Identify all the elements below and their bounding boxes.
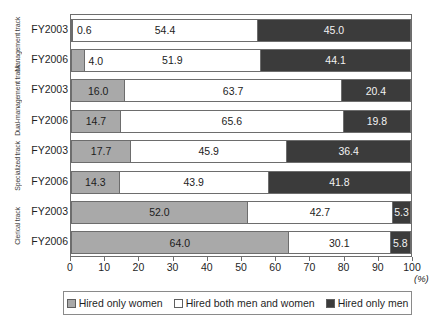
bar-value-label-outside: 4.0 — [89, 56, 104, 67]
bar-value-label: 54.4 — [155, 25, 175, 36]
bar-row: 14.343.941.8 — [71, 171, 411, 194]
category-label: FY2003 — [26, 206, 68, 217]
group-label: Specialized track — [14, 136, 26, 197]
bar-segment: 5.8 — [391, 231, 411, 254]
legend-label: Hired only women — [79, 298, 163, 309]
bar-value-label: 17.7 — [91, 146, 111, 157]
category-label: FY2006 — [26, 236, 68, 247]
category-label-column: FY2003FY2006FY2003FY2006FY2003FY2006FY20… — [26, 0, 68, 327]
bar-row: 17.745.936.4 — [71, 140, 411, 163]
legend-swatch — [67, 299, 76, 308]
bar-segment: 43.9 — [120, 171, 269, 194]
bar-segment: 4.0 — [71, 49, 85, 72]
x-axis-tick-label: 100 — [403, 262, 421, 273]
x-axis-tick-label: 10 — [98, 262, 110, 273]
bar-value-label: 51.9 — [162, 55, 182, 66]
category-label: FY2003 — [26, 84, 68, 95]
bar-row: 14.765.619.8 — [71, 110, 411, 133]
bar-value-label: 63.7 — [223, 86, 243, 97]
legend-swatch — [174, 299, 183, 308]
bar-value-label: 43.9 — [184, 177, 204, 188]
bar-segment: 45.0 — [258, 19, 411, 42]
bar-value-label: 36.4 — [338, 146, 358, 157]
bar-value-label: 30.1 — [329, 238, 349, 249]
bar-segment: 16.0 — [71, 79, 125, 102]
bar-row: 4.051.944.1 — [71, 49, 411, 72]
bar-value-label: 44.1 — [325, 55, 345, 66]
x-axis-tick-label: 70 — [304, 262, 316, 273]
bar-value-label: 20.4 — [366, 86, 386, 97]
bar-value-label: 65.6 — [222, 116, 242, 127]
legend-swatch — [326, 299, 335, 308]
x-axis-unit-label: (%) — [414, 274, 429, 284]
x-axis-tick-label: 60 — [269, 262, 281, 273]
bar-segment: 19.8 — [344, 110, 411, 133]
bar-value-label: 16.0 — [88, 86, 108, 97]
bar-segment: 44.1 — [261, 49, 411, 72]
bar-segment: 52.0 — [71, 201, 248, 224]
category-label: FY2006 — [26, 115, 68, 126]
category-label: FY2003 — [26, 145, 68, 156]
legend-label: Hired both men and women — [186, 298, 315, 309]
bar-value-label: 42.7 — [310, 207, 330, 218]
legend: Hired only womenHired both men and women… — [63, 291, 412, 315]
x-axis-tick-label: 40 — [201, 262, 213, 273]
bar-segment: 30.1 — [289, 231, 391, 254]
stacked-bar-chart: Management trackDual-management trackSpe… — [0, 0, 437, 327]
bar-segment: 64.0 — [71, 231, 289, 254]
x-axis-tick-label: 90 — [372, 262, 384, 273]
bar-segment: 54.4 — [73, 19, 258, 42]
bar-segment: 42.7 — [248, 201, 393, 224]
legend-item: Hired both men and women — [174, 298, 315, 309]
bar-row: 0.654.445.0 — [71, 19, 411, 42]
bar-value-label: 45.9 — [198, 146, 218, 157]
bar-value-label: 64.0 — [170, 238, 190, 249]
bar-segment: 17.7 — [71, 140, 131, 163]
bar-value-label: 52.0 — [149, 207, 169, 218]
bar-value-label: 14.7 — [86, 116, 106, 127]
bar-value-label: 5.8 — [393, 238, 408, 249]
legend-item: Hired only men — [326, 298, 409, 309]
bar-segment: 36.4 — [287, 140, 411, 163]
category-label: FY2003 — [26, 24, 68, 35]
category-label: FY2006 — [26, 176, 68, 187]
bar-row: 64.030.15.8 — [71, 231, 411, 254]
x-axis-tick-label: 0 — [67, 262, 73, 273]
bar-segment: 63.7 — [125, 79, 341, 102]
bar-segment: 41.8 — [269, 171, 411, 194]
bar-value-label: 19.8 — [367, 116, 387, 127]
bar-row: 16.063.720.4 — [71, 79, 411, 102]
x-axis-tick-label: 50 — [235, 262, 247, 273]
bar-segment: 65.6 — [121, 110, 344, 133]
plot-area: 0.654.445.00.64.051.944.14.016.063.720.4… — [70, 14, 412, 257]
bar-segment: 45.9 — [131, 140, 287, 163]
bar-segment: 14.3 — [71, 171, 120, 194]
x-axis-tick-label: 30 — [167, 262, 179, 273]
bar-segment: 14.7 — [71, 110, 121, 133]
group-label: Clerical track — [14, 196, 26, 257]
group-label: Dual-management track — [14, 75, 26, 136]
bar-row: 52.042.75.3 — [71, 201, 411, 224]
bar-value-label-outside: 0.6 — [77, 25, 92, 36]
x-axis-tick-label: 80 — [338, 262, 350, 273]
category-label: FY2006 — [26, 54, 68, 65]
bar-segment: 51.9 — [85, 49, 261, 72]
bar-value-label: 14.3 — [85, 177, 105, 188]
bar-value-label: 5.3 — [394, 207, 409, 218]
bar-segment: 5.3 — [393, 201, 411, 224]
x-axis: (%) 0102030405060708090100 — [70, 257, 412, 281]
bar-segment: 20.4 — [342, 79, 411, 102]
legend-label: Hired only men — [338, 298, 409, 309]
bar-value-label: 41.8 — [329, 177, 349, 188]
x-axis-tick-label: 20 — [133, 262, 145, 273]
bar-value-label: 45.0 — [324, 25, 344, 36]
legend-item: Hired only women — [67, 298, 163, 309]
